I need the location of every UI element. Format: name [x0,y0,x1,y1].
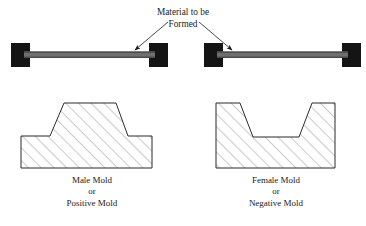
forming-molds-diagram: Material to be Formed [0,0,366,226]
material-label-line2: Formed [169,19,198,29]
material-label-line1: Material to be [157,7,209,17]
female-mold-shape [216,103,335,168]
male-mold-shape [21,103,152,168]
male-mold-caption-line1: Male Mold [72,175,113,185]
female-mold-caption: Female Mold or Negative Mold [249,175,304,208]
male-mold-outline [21,103,152,168]
female-mold-caption-line2: or [272,186,280,196]
female-mold-caption-line1: Female Mold [252,175,301,185]
male-mold-caption: Male Mold or Positive Mold [67,175,118,208]
male-mold-caption-line3: Positive Mold [67,198,118,208]
right-sheet-bottom-edge [216,57,349,58]
left-sheet-assembly [11,43,168,67]
female-mold-outline [216,103,335,168]
material-label: Material to be Formed [157,7,209,29]
male-mold-caption-line2: or [88,186,96,196]
right-sheet-top-edge [216,52,349,53]
left-sheet-bottom-edge [23,57,156,58]
figure-canvas: Material to be Formed [0,0,366,226]
female-mold-caption-line3: Negative Mold [249,198,304,208]
left-sheet-top-edge [23,52,156,53]
